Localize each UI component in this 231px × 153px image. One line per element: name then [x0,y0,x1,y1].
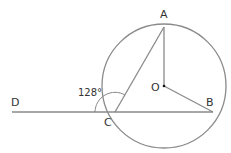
geometry-diagram: A B C D O 128° [0,0,231,153]
label-o: O [151,81,160,94]
angle-label: 128° [78,87,102,98]
label-b: B [206,96,214,109]
center-point-o [163,85,166,88]
label-a: A [160,8,168,21]
label-c: C [104,116,112,129]
label-d: D [11,96,19,109]
